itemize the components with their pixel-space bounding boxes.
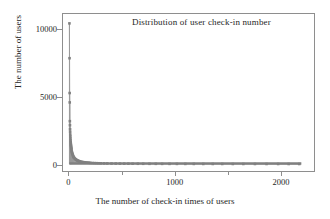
x-axis-title: The number of check-in times of users	[0, 196, 330, 206]
data-series-canvas	[63, 14, 314, 171]
x-tick-mark-minor	[228, 172, 229, 175]
x-tick-mark	[175, 172, 176, 176]
x-tick-label: 0	[66, 177, 70, 187]
x-tick-mark	[68, 172, 69, 176]
chart-title: Distribution of user check-in number	[132, 17, 271, 27]
x-tick-label: 1000	[166, 177, 183, 187]
y-tick-label: 10000	[36, 24, 57, 34]
y-axis-ticks: 0500010000	[0, 0, 57, 219]
x-tick-mark-minor	[122, 172, 123, 175]
x-tick-mark	[281, 172, 282, 176]
chart-figure: The number of users 0500010000 Distribut…	[0, 0, 330, 219]
y-tick-label: 5000	[40, 92, 57, 102]
x-tick-label: 2000	[272, 177, 289, 187]
plot-area	[62, 13, 315, 172]
